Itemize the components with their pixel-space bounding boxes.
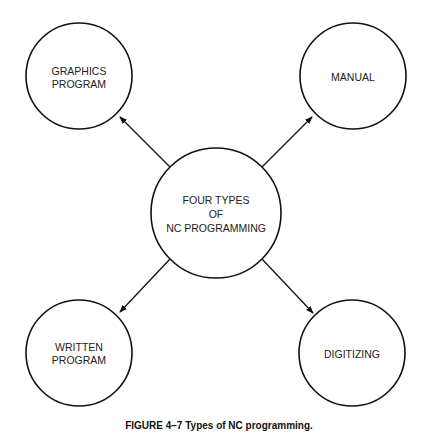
node-manual: MANUAL xyxy=(300,23,406,129)
manual-label: MANUAL xyxy=(331,71,375,83)
written-label-line-1: WRITTEN xyxy=(55,341,103,353)
arrow-to-digitizing xyxy=(262,259,313,313)
graphics-label-line-1: GRAPHICS xyxy=(52,65,107,77)
center-node: FOUR TYPES OF NC PROGRAMMING xyxy=(151,148,281,278)
graphics-label-line-2: PROGRAM xyxy=(52,78,106,90)
node-graphics-program: GRAPHICS PROGRAM xyxy=(26,23,132,129)
digitizing-label: DIGITIZING xyxy=(324,348,380,360)
arrow-to-manual xyxy=(262,117,312,167)
diagram-canvas: FOUR TYPES OF NC PROGRAMMING GRAPHICS PR… xyxy=(0,0,434,448)
written-label-line-2: PROGRAM xyxy=(52,354,106,366)
center-label-line-2: OF xyxy=(209,208,224,220)
node-digitizing: DIGITIZING xyxy=(299,300,405,406)
figure-caption: FIGURE 4–7 Types of NC programming. xyxy=(125,420,313,431)
arrow-to-graphics xyxy=(120,117,170,167)
arrow-to-written xyxy=(120,259,170,312)
node-written-program: WRITTEN PROGRAM xyxy=(26,300,132,406)
center-label-line-1: FOUR TYPES xyxy=(183,194,250,206)
center-label-line-3: NC PROGRAMMING xyxy=(166,222,266,234)
